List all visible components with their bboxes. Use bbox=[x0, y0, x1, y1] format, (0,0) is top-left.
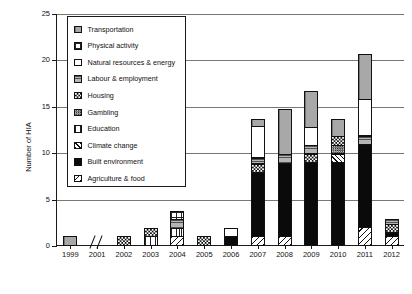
bar-2011 bbox=[358, 54, 372, 245]
x-tick-2012 bbox=[392, 245, 393, 249]
legend-item-natural: Natural resources & energy bbox=[74, 54, 185, 71]
legend-item-label: Gambling bbox=[88, 109, 119, 116]
bar-segment-agriculture bbox=[358, 227, 372, 246]
x-tick-label: 2006 bbox=[223, 250, 240, 259]
x-tick-label: 2008 bbox=[276, 250, 293, 259]
legend-item-label: Built environment bbox=[88, 158, 144, 165]
bar-segment-transportation bbox=[358, 54, 372, 100]
x-tick-2007 bbox=[258, 245, 259, 249]
y-axis-title: Number of HIA bbox=[24, 122, 33, 172]
x-tick-label: 2007 bbox=[249, 250, 266, 259]
bar-2008 bbox=[278, 109, 292, 245]
legend-item-label: Agriculture & food bbox=[88, 175, 145, 182]
x-tick-2011 bbox=[365, 245, 366, 249]
bar-segment-built bbox=[278, 163, 292, 237]
legend-item-education: Education bbox=[74, 121, 185, 138]
diagonal-down-lines-icon bbox=[74, 175, 82, 183]
bar-segment-natural bbox=[304, 127, 318, 146]
white-empty-icon bbox=[74, 59, 82, 67]
bar-segment-transportation bbox=[331, 119, 345, 138]
legend: TransportationPhysical activityNatural r… bbox=[67, 16, 186, 187]
x-tick-2002 bbox=[124, 245, 125, 249]
x-tick-label: 2002 bbox=[116, 250, 133, 259]
checkerboard-fine-icon bbox=[74, 109, 82, 117]
bar-2006 bbox=[224, 228, 238, 245]
x-tick-label: 2003 bbox=[142, 250, 159, 259]
bar-segment-built bbox=[331, 162, 345, 246]
x-tick-label: 2011 bbox=[357, 250, 373, 259]
bar-segment-built bbox=[304, 162, 318, 246]
x-tick-label: 1999 bbox=[62, 250, 79, 259]
legend-item-label: Transportation bbox=[88, 26, 134, 33]
y-tick-label: 10 bbox=[42, 149, 50, 157]
solid-black-icon bbox=[74, 158, 82, 166]
y-tick-label: 25 bbox=[42, 10, 50, 18]
x-tick-2009 bbox=[311, 245, 312, 249]
legend-item-label: Physical activity bbox=[88, 42, 139, 49]
y-tick-label: 20 bbox=[42, 57, 50, 65]
x-tick-label: 2005 bbox=[196, 250, 213, 259]
legend-item-label: Labour & employment bbox=[88, 75, 158, 82]
legend-item-label: Natural resources & energy bbox=[88, 59, 176, 66]
x-tick-label: 2012 bbox=[383, 250, 400, 259]
bar-2003 bbox=[144, 228, 158, 245]
x-tick-label: 2009 bbox=[303, 250, 320, 259]
bar-segment-natural bbox=[358, 99, 372, 136]
bar-2010 bbox=[331, 119, 345, 245]
bar-2009 bbox=[304, 91, 318, 245]
legend-item-gambling: Gambling bbox=[74, 104, 185, 121]
bar-2004 bbox=[170, 211, 184, 245]
legend-item-transportation: Transportation bbox=[74, 21, 185, 38]
y-tick-label: 5 bbox=[46, 196, 50, 204]
legend-item-climate: Climate change bbox=[74, 137, 185, 154]
bar-segment-built bbox=[251, 172, 265, 237]
x-tick-2006 bbox=[231, 245, 232, 249]
x-tick-label: 2010 bbox=[330, 250, 347, 259]
x-tick-2005 bbox=[204, 245, 205, 249]
bar-segment-transportation bbox=[278, 109, 292, 155]
checkerboard-coarse-icon bbox=[74, 92, 82, 100]
bar-2005 bbox=[197, 236, 211, 245]
legend-item-housing: Housing bbox=[74, 87, 185, 104]
legend-item-physical: Physical activity bbox=[74, 38, 185, 55]
bar-segment-built bbox=[358, 144, 372, 228]
legend-item-built: Built environment bbox=[74, 154, 185, 171]
x-tick-label: 2004 bbox=[169, 250, 186, 259]
x-tick-label: 2001 bbox=[89, 250, 106, 259]
bar-segment-natural bbox=[251, 126, 265, 158]
x-tick-1999 bbox=[70, 245, 71, 249]
legend-item-label: Climate change bbox=[88, 142, 138, 149]
gray-horizontal-lines-icon bbox=[74, 75, 82, 83]
x-tick-2003 bbox=[151, 245, 152, 249]
bar-2012 bbox=[385, 219, 399, 245]
legend-item-labour: Labour & employment bbox=[74, 71, 185, 88]
bar-2002 bbox=[117, 236, 131, 245]
legend-item-label: Housing bbox=[88, 92, 114, 99]
x-tick-2010 bbox=[338, 245, 339, 249]
chart-figure: Number of HIA 0510152025 199920012002200… bbox=[0, 0, 412, 294]
legend-item-agriculture: Agriculture & food bbox=[74, 170, 185, 187]
bar-segment-transportation bbox=[304, 91, 318, 128]
x-tick-2004 bbox=[177, 245, 178, 249]
vertical-lines-icon bbox=[74, 125, 82, 133]
legend-item-label: Education bbox=[88, 125, 120, 132]
fine-grid-icon bbox=[74, 42, 82, 50]
y-tick-label: 0 bbox=[46, 242, 50, 250]
y-tick-label: 15 bbox=[42, 103, 50, 111]
diagonal-up-lines-icon bbox=[74, 142, 82, 150]
x-tick-2008 bbox=[285, 245, 286, 249]
y-tick-0 bbox=[52, 246, 57, 247]
solid-gray-vertical-ruled-icon bbox=[74, 26, 82, 34]
bar-2007 bbox=[251, 119, 265, 245]
bar-1999 bbox=[63, 236, 77, 245]
